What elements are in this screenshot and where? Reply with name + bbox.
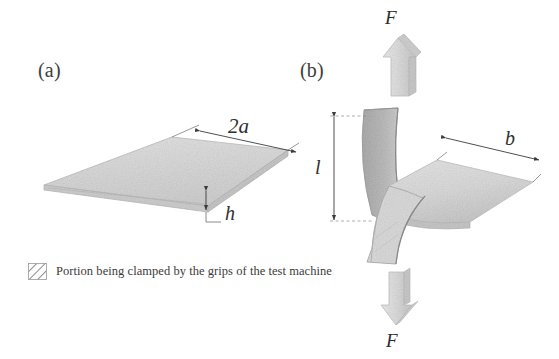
dimension-label-l: l xyxy=(315,157,321,177)
dim-b-arrow-line xyxy=(446,138,539,160)
dimension-label-h: h xyxy=(225,203,235,223)
figure-artwork xyxy=(0,0,559,359)
force-arrow-bottom-side xyxy=(404,268,410,305)
dim-2a-extension-right xyxy=(288,143,299,150)
panel-label-a: (a) xyxy=(38,60,61,80)
figure-canvas: (a) (b) 2a h l b F F Portion being clamp… xyxy=(0,0,559,359)
force-label-top: F xyxy=(385,8,397,27)
dim-h-leader xyxy=(206,212,221,222)
legend-text: Portion being clamped by the grips of th… xyxy=(56,264,332,279)
force-arrow-top xyxy=(383,34,421,96)
dim-2a-extension-left xyxy=(172,125,199,137)
legend: Portion being clamped by the grips of th… xyxy=(28,263,332,280)
panel-a-artwork xyxy=(44,137,288,212)
dim-b-extension-right xyxy=(533,174,541,182)
plate-top-face xyxy=(44,137,288,206)
force-label-bottom: F xyxy=(386,331,398,350)
dim-b-extension-left xyxy=(437,152,447,160)
force-arrow-bottom xyxy=(381,268,418,325)
force-arrow-top-shaft-side xyxy=(409,57,416,96)
hatch-swatch-icon xyxy=(28,263,47,280)
dimension-label-b: b xyxy=(505,128,515,148)
panel-label-b: (b) xyxy=(300,60,324,80)
dimension-label-2a: 2a xyxy=(228,116,249,137)
